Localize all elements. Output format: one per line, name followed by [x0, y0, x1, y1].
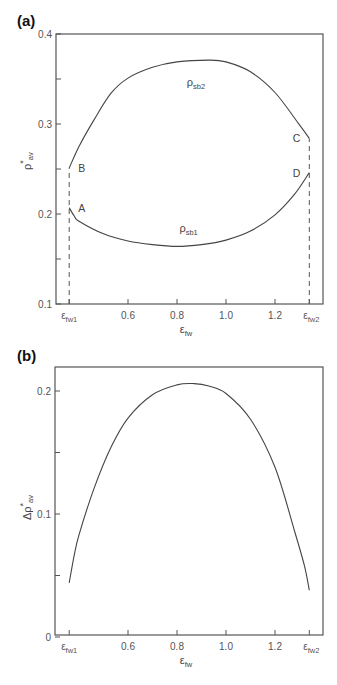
panel-b-x-axis: εfw10.60.81.01.2εfw2 — [61, 630, 319, 655]
point-label-d: D — [293, 167, 301, 179]
x-tick-label: 1.0 — [219, 641, 233, 652]
panel-b-curve — [69, 383, 309, 590]
panel-a-x-axis-title: εfw — [180, 323, 193, 338]
panel-a-series-labels: ρsb2ρsb1 — [179, 76, 205, 237]
panel-b-label: (b) — [17, 347, 36, 364]
x-tick-label: 1.0 — [219, 310, 233, 321]
x-tick-label-eps-fw1: εfw1 — [61, 641, 77, 655]
panel-a-x-axis: εfw10.60.81.01.2εfw2 — [61, 299, 319, 324]
y-tick-label: 0.4 — [38, 29, 52, 40]
x-tick-label: 0.8 — [170, 641, 184, 652]
y-tick-label: 0.2 — [37, 386, 51, 397]
panel-b: (b) 00.10.2 εfw10.60.81.01.2εfw2 Δρ*av ε… — [17, 347, 323, 669]
panel-b-x-axis-title: εfw — [180, 654, 193, 669]
point-label-a: A — [78, 202, 85, 214]
series-label-sb2: ρsb2 — [187, 76, 205, 91]
y-tick-label: 0.1 — [37, 509, 51, 520]
panel-a-dashed-lines — [69, 138, 309, 304]
x-tick-label: 0.8 — [170, 310, 184, 321]
x-tick-label: 0.6 — [121, 310, 135, 321]
panel-a-y-axis-title: ρ*av — [18, 152, 35, 170]
panel-a: (a) 0.10.20.30.4 εfw10.60.81.01.2εfw2 AB… — [17, 12, 323, 338]
panel-b-y-axis-title: Δρ*av — [18, 495, 35, 520]
y-tick-label: 0.2 — [38, 209, 52, 220]
panel-a-y-axis: 0.10.20.30.4 — [38, 29, 61, 310]
x-tick-label: 0.6 — [121, 641, 135, 652]
point-label-c: C — [293, 132, 301, 144]
point-label-b: B — [78, 162, 85, 174]
y-tick-label: 0.1 — [38, 299, 52, 310]
panel-b-y-axis: 00.10.2 — [37, 386, 60, 643]
panel-a-frame — [56, 34, 323, 304]
panel-b-frame — [55, 367, 323, 635]
curve-delta-rho — [69, 383, 309, 590]
y-tick-label: 0 — [45, 632, 51, 643]
x-tick-label-eps-fw2: εfw2 — [303, 310, 319, 324]
x-tick-label-eps-fw1: εfw1 — [61, 310, 77, 324]
x-tick-label: 1.2 — [268, 310, 282, 321]
panel-a-label: (a) — [17, 12, 35, 29]
panel-a-point-labels: ABCD — [78, 132, 301, 213]
x-tick-label-eps-fw2: εfw2 — [303, 641, 319, 655]
x-tick-label: 1.2 — [268, 641, 282, 652]
figure: (a) 0.10.20.30.4 εfw10.60.81.01.2εfw2 AB… — [0, 0, 337, 685]
y-tick-label: 0.3 — [38, 119, 52, 130]
series-label-sb1: ρsb1 — [179, 222, 197, 237]
